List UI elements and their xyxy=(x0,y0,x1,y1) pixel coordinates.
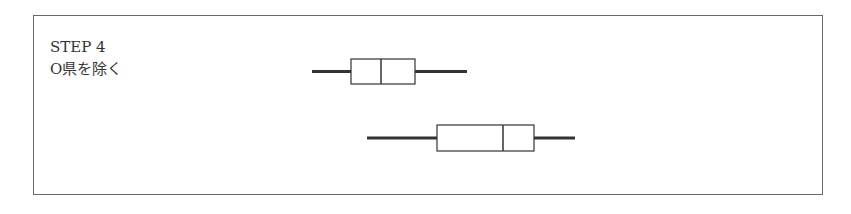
boxplot-diagram xyxy=(0,0,851,214)
box xyxy=(351,59,415,84)
box xyxy=(437,125,534,151)
boxplot-bottom xyxy=(367,125,575,151)
boxplot-top xyxy=(312,59,467,84)
